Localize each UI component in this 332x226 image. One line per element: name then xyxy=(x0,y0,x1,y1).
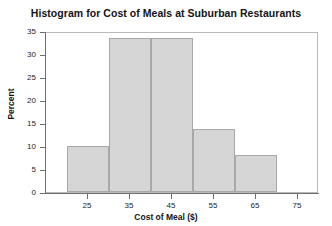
y-axis-tick-label: 25 xyxy=(27,74,36,82)
x-axis-tick xyxy=(213,194,214,199)
x-axis-tick-label: 75 xyxy=(282,201,312,210)
y-axis-title: Percent xyxy=(6,74,16,134)
y-axis-tick-label: 30 xyxy=(27,51,36,59)
histogram-figure: Histogram for Cost of Meals at Suburban … xyxy=(0,0,332,226)
y-axis-tick xyxy=(40,78,45,79)
x-axis-tick-label: 35 xyxy=(114,201,144,210)
x-axis-tick xyxy=(171,194,172,199)
histogram-bar xyxy=(193,129,235,192)
histogram-bar xyxy=(109,38,151,192)
x-axis-title: Cost of Meal ($) xyxy=(0,212,332,222)
histogram-bar xyxy=(235,155,277,192)
x-axis-tick-label: 65 xyxy=(240,201,270,210)
y-axis-tick xyxy=(40,170,45,171)
y-axis-tick xyxy=(40,193,45,194)
y-axis-tick-label: 35 xyxy=(27,28,36,36)
histogram-bar xyxy=(67,146,109,192)
y-axis-tick xyxy=(40,147,45,148)
x-axis-tick xyxy=(129,194,130,199)
plot-area xyxy=(46,33,317,192)
x-axis-tick-label: 25 xyxy=(72,201,102,210)
x-axis-tick xyxy=(297,194,298,199)
x-axis-tick-label: 55 xyxy=(198,201,228,210)
x-axis-tick xyxy=(255,194,256,199)
y-axis-line xyxy=(45,32,46,194)
y-axis-tick xyxy=(40,101,45,102)
y-axis-tick-label: 10 xyxy=(27,143,36,151)
y-axis-tick xyxy=(40,32,45,33)
y-axis-tick-label: 0 xyxy=(32,189,36,197)
chart-title: Histogram for Cost of Meals at Suburban … xyxy=(0,7,332,19)
x-axis-tick xyxy=(87,194,88,199)
histogram-bar xyxy=(151,38,193,192)
plot-frame xyxy=(45,32,318,193)
y-axis-tick xyxy=(40,124,45,125)
y-axis-tick-label: 20 xyxy=(27,97,36,105)
x-axis-tick-label: 45 xyxy=(156,201,186,210)
y-axis-tick xyxy=(40,55,45,56)
y-axis-tick-label: 5 xyxy=(32,166,36,174)
y-axis-tick-label: 15 xyxy=(27,120,36,128)
